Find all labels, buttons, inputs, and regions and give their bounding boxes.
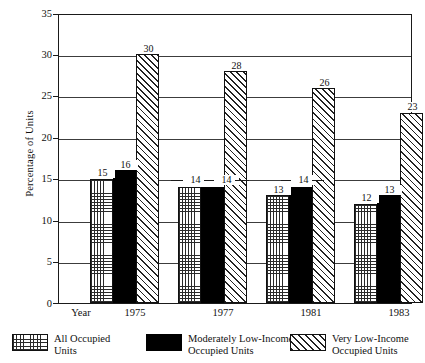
legend-label-very-low-income: Very Low-Income Occupied Units xyxy=(332,333,409,356)
legend-swatch-grid-hatch-icon xyxy=(12,334,48,351)
legend-label-all-occupied-units: All Occupied Units xyxy=(54,333,110,356)
legend-item-moderately-low-income[interactable]: Moderately Low-Income Occupied Units xyxy=(146,333,293,356)
legend-swatch-solid-black-icon xyxy=(146,334,182,351)
x-tick-label-1975: 1975 xyxy=(112,307,158,318)
x-tick-label-1981: 1981 xyxy=(288,307,334,318)
legend-label-moderately-low-income: Moderately Low-Income Occupied Units xyxy=(188,333,293,356)
x-axis-caption-year: Year xyxy=(58,307,104,318)
legend-item-very-low-income[interactable]: Very Low-Income Occupied Units xyxy=(290,333,409,356)
legend: All Occupied Units Moderately Low-Income… xyxy=(0,333,418,363)
legend-swatch-diagonal-hatch-icon xyxy=(290,334,326,351)
legend-item-all-occupied-units[interactable]: All Occupied Units xyxy=(12,333,110,356)
x-tick-label-1977: 1977 xyxy=(200,307,246,318)
x-tick-label-1983: 1983 xyxy=(376,307,422,318)
